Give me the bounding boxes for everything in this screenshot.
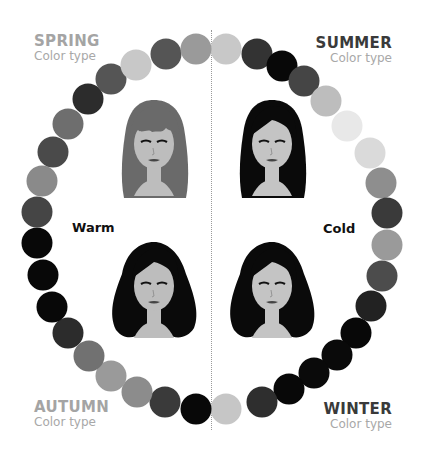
color-swatch xyxy=(211,34,242,65)
season-subtitle: Color type xyxy=(316,52,392,65)
season-name: SPRING xyxy=(34,34,100,50)
color-swatch xyxy=(366,168,397,199)
warm-label: Warm xyxy=(72,220,115,235)
season-subtitle: Color type xyxy=(34,50,100,63)
color-swatch xyxy=(367,261,398,292)
cold-label: Cold xyxy=(323,221,355,236)
color-swatch xyxy=(151,39,182,70)
portrait-winter xyxy=(222,234,322,344)
color-swatch xyxy=(274,374,305,405)
color-swatch xyxy=(150,387,181,418)
color-swatch xyxy=(356,291,387,322)
color-swatch xyxy=(372,198,403,229)
season-label-winter: WINTER Color type xyxy=(323,402,392,430)
color-swatch xyxy=(332,111,363,142)
color-swatch xyxy=(22,197,53,228)
color-swatch xyxy=(122,377,153,408)
color-swatch xyxy=(53,109,84,140)
season-label-spring: SPRING Color type xyxy=(34,34,100,62)
color-swatch xyxy=(247,387,278,418)
color-swatch xyxy=(372,230,403,261)
color-swatch xyxy=(355,138,386,169)
season-name: AUTUMN xyxy=(34,400,109,416)
color-swatch xyxy=(121,50,152,81)
season-name: WINTER xyxy=(323,402,392,418)
season-name: SUMMER xyxy=(316,36,392,52)
warm-cold-divider xyxy=(211,30,212,430)
color-swatch xyxy=(37,292,68,323)
color-swatch xyxy=(53,318,84,349)
season-label-summer: SUMMER Color type xyxy=(316,36,392,64)
color-swatch xyxy=(211,394,242,425)
color-swatch xyxy=(181,34,212,65)
color-swatch xyxy=(74,341,105,372)
color-swatch xyxy=(22,228,53,259)
color-swatch xyxy=(28,260,59,291)
portrait-autumn xyxy=(104,234,204,344)
season-subtitle: Color type xyxy=(323,418,392,431)
season-label-autumn: AUTUMN Color type xyxy=(34,400,109,428)
portrait-spring xyxy=(104,92,204,202)
color-swatch xyxy=(27,166,58,197)
color-swatch xyxy=(181,394,212,425)
color-swatch xyxy=(38,137,69,168)
color-type-wheel: SPRING Color type SUMMER Color type AUTU… xyxy=(0,0,422,456)
season-subtitle: Color type xyxy=(34,416,109,429)
portrait-summer xyxy=(222,92,322,202)
